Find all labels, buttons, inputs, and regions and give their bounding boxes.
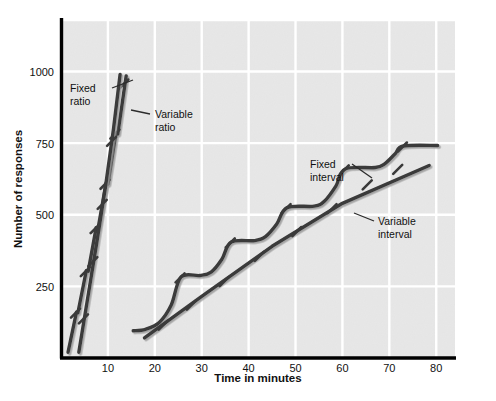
y-axis-title: Number of responses [12, 130, 24, 248]
chart-svg: 1020304050607080 2505007501000 Fixedrati… [0, 0, 496, 401]
x-tick-label: 60 [336, 362, 348, 374]
y-tick-label: 500 [36, 209, 54, 221]
x-axis-title: Time in minutes [214, 372, 301, 384]
x-tick-label: 80 [430, 362, 442, 374]
y-tick-label: 1000 [30, 66, 54, 78]
x-tick-label: 20 [149, 362, 161, 374]
annotation-label: Variableinterval [378, 215, 416, 240]
x-tick-label: 70 [383, 362, 395, 374]
y-tick-label: 750 [36, 138, 54, 150]
chart-figure: 1020304050607080 2505007501000 Fixedrati… [0, 0, 496, 401]
x-tick-label: 30 [196, 362, 208, 374]
y-tick-label: 250 [36, 281, 54, 293]
x-tick-label: 10 [102, 362, 114, 374]
